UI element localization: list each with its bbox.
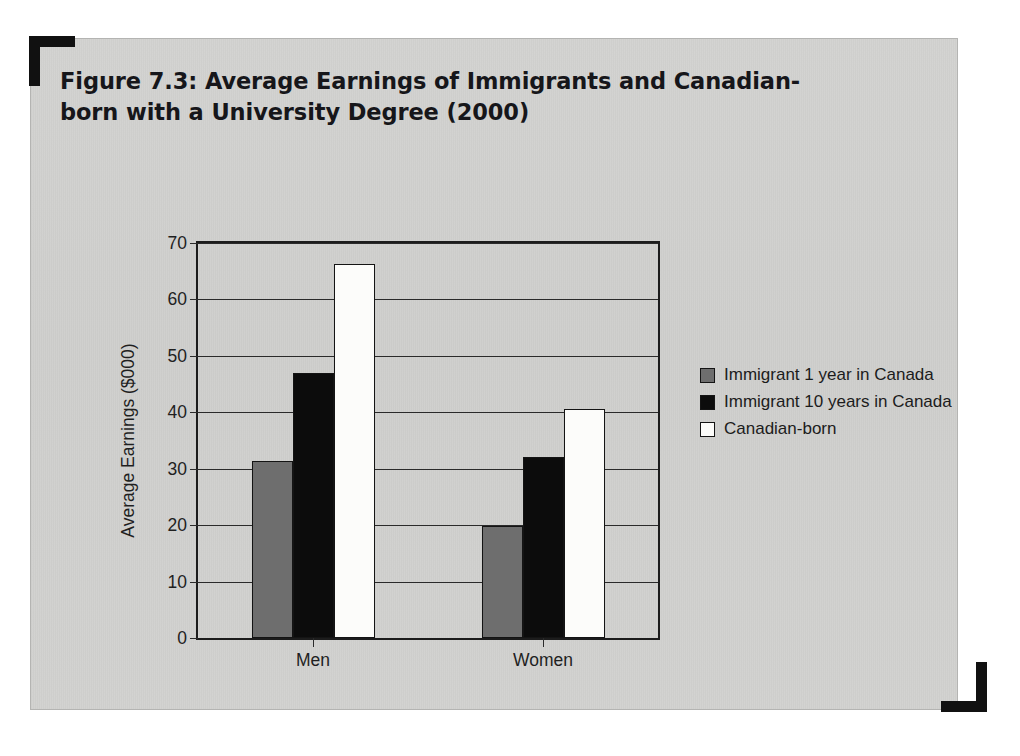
x-axis-category-label: Women xyxy=(513,650,573,671)
bar xyxy=(482,526,523,638)
bar xyxy=(293,373,334,638)
plot-area: 010203040506070MenWomen xyxy=(196,241,660,640)
legend-swatch-icon xyxy=(700,395,715,410)
legend-swatch-icon xyxy=(700,422,715,437)
bar xyxy=(252,461,293,638)
y-axis-tick-mark xyxy=(190,638,198,639)
bar xyxy=(523,457,564,638)
legend-item: Immigrant 1 year in Canada xyxy=(700,365,952,385)
legend-item-label: Immigrant 10 years in Canada xyxy=(724,392,952,412)
y-axis-tick-label: 50 xyxy=(168,345,187,366)
y-axis-title-label: Average Earnings ($000) xyxy=(118,343,139,537)
y-axis-tick-mark xyxy=(190,412,198,413)
chart-legend: Immigrant 1 year in CanadaImmigrant 10 y… xyxy=(700,365,952,439)
y-axis-title: Average Earnings ($000) xyxy=(115,241,141,640)
y-axis-tick-label: 10 xyxy=(168,571,187,592)
y-axis-tick-label: 60 xyxy=(168,289,187,310)
x-axis-tick-mark xyxy=(543,638,544,647)
y-axis-tick-mark xyxy=(190,243,198,244)
y-axis-tick-label: 40 xyxy=(168,402,187,423)
y-axis-tick-label: 30 xyxy=(168,458,187,479)
x-axis-category-label: Men xyxy=(296,650,330,671)
legend-item: Immigrant 10 years in Canada xyxy=(700,392,952,412)
y-axis-tick-mark xyxy=(190,299,198,300)
y-axis-tick-mark xyxy=(190,356,198,357)
legend-swatch-icon xyxy=(700,368,715,383)
y-axis-tick-label: 0 xyxy=(177,628,187,649)
gridline xyxy=(198,356,658,357)
corner-bracket-vertical xyxy=(976,662,987,712)
bar xyxy=(564,409,605,638)
legend-item-label: Immigrant 1 year in Canada xyxy=(724,365,934,385)
y-axis-tick-label: 20 xyxy=(168,515,187,536)
y-axis-tick-mark xyxy=(190,525,198,526)
legend-item: Canadian-born xyxy=(700,419,952,439)
gridline xyxy=(198,299,658,300)
bar xyxy=(334,264,375,638)
gridline xyxy=(198,243,658,244)
x-axis-tick-mark xyxy=(313,638,314,647)
y-axis-tick-mark xyxy=(190,469,198,470)
legend-item-label: Canadian-born xyxy=(724,419,836,439)
y-axis-tick-mark xyxy=(190,582,198,583)
bar-chart: Average Earnings ($000) 010203040506070M… xyxy=(30,38,958,710)
y-axis-tick-label: 70 xyxy=(168,233,187,254)
scanned-page: Figure 7.3: Average Earnings of Immigran… xyxy=(0,0,1020,756)
